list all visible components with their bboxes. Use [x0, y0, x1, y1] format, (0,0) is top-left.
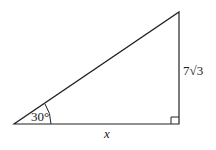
base-label: x	[103, 126, 110, 141]
triangle-diagram: 30° 7√3 x	[0, 0, 216, 150]
vertical-side-label: 7√3	[183, 63, 203, 78]
angle-label: 30°	[31, 109, 49, 124]
right-angle-marker	[171, 117, 179, 124]
triangle	[14, 12, 179, 124]
